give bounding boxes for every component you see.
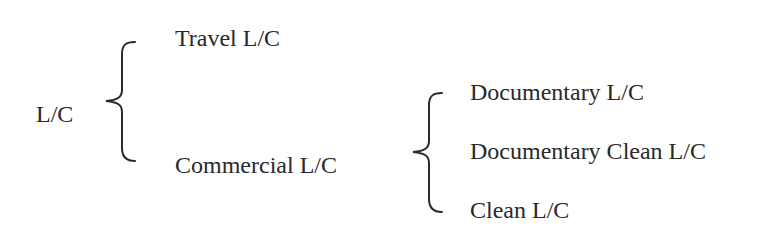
brace-icon-level2 xyxy=(411,91,445,215)
lc-classification-diagram: L/C Travel L/C Commercial L/C Documentar… xyxy=(0,0,780,238)
node-clean-lc: Clean L/C xyxy=(470,198,569,222)
node-documentary-lc: Documentary L/C xyxy=(470,80,644,104)
node-documentary-clean-lc: Documentary Clean L/C xyxy=(470,139,706,163)
node-travel-lc: Travel L/C xyxy=(175,26,280,50)
root-node-lc: L/C xyxy=(36,102,73,126)
brace-icon-level1 xyxy=(104,40,138,164)
node-commercial-lc: Commercial L/C xyxy=(175,153,337,177)
